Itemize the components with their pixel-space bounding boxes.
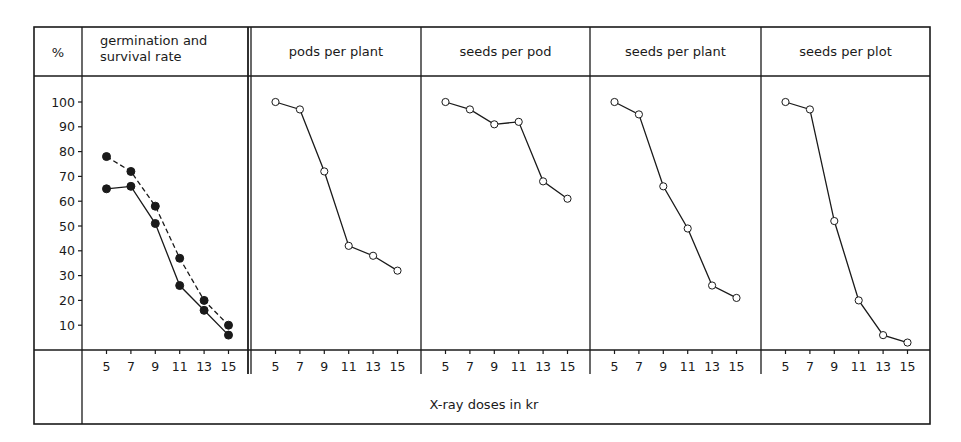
filled-circle-marker bbox=[127, 167, 135, 175]
panel-headers: germination andsurvival ratepods per pla… bbox=[100, 33, 892, 64]
y-tick-label: 80 bbox=[59, 144, 75, 159]
open-circle-marker bbox=[880, 332, 887, 339]
x-tick-label: 11 bbox=[172, 359, 188, 374]
x-tick-label: 15 bbox=[560, 359, 576, 374]
y-tick-label: 30 bbox=[59, 268, 75, 283]
open-circle-marker bbox=[515, 118, 522, 125]
x-tick-label: 5 bbox=[442, 359, 450, 374]
panel-title: seeds per plant bbox=[625, 44, 726, 59]
panel-title: pods per plant bbox=[289, 44, 383, 59]
x-tick-label: 9 bbox=[830, 359, 838, 374]
x-tick-label: 13 bbox=[196, 359, 212, 374]
x-tick-label: 7 bbox=[466, 359, 474, 374]
x-tick-label: 7 bbox=[127, 359, 135, 374]
series-germination-rate bbox=[103, 153, 233, 330]
filled-circle-marker bbox=[225, 321, 233, 329]
y-axis: 102030405060708090100 bbox=[51, 95, 82, 333]
y-tick-label: 40 bbox=[59, 243, 75, 258]
open-circle-marker bbox=[806, 106, 813, 113]
x-tick-label: 15 bbox=[900, 359, 916, 374]
solid-line bbox=[786, 102, 908, 343]
open-circle-marker bbox=[272, 98, 279, 105]
x-tick-label: 11 bbox=[341, 359, 357, 374]
x-axis-label: X-ray doses in kr bbox=[430, 397, 539, 412]
open-circle-marker bbox=[684, 225, 691, 232]
x-tick-label: 11 bbox=[851, 359, 867, 374]
open-circle-marker bbox=[782, 98, 789, 105]
filled-circle-marker bbox=[176, 282, 184, 290]
open-circle-marker bbox=[611, 98, 618, 105]
x-tick-label: 7 bbox=[296, 359, 304, 374]
dashed-line bbox=[107, 157, 229, 326]
open-circle-marker bbox=[345, 242, 352, 249]
open-circle-marker bbox=[635, 111, 642, 118]
outer-border bbox=[34, 27, 930, 424]
open-circle-marker bbox=[394, 267, 401, 274]
filled-circle-marker bbox=[200, 306, 208, 314]
open-circle-marker bbox=[442, 98, 449, 105]
open-circle-marker bbox=[855, 297, 862, 304]
open-circle-marker bbox=[564, 195, 571, 202]
open-circle-marker bbox=[540, 178, 547, 185]
y-tick-label: 90 bbox=[59, 119, 75, 134]
x-tick-label: 5 bbox=[272, 359, 280, 374]
x-tick-label: 15 bbox=[221, 359, 237, 374]
series-pods-per-plant bbox=[272, 98, 401, 274]
filled-circle-marker bbox=[151, 202, 159, 210]
x-tick-label: 11 bbox=[511, 359, 527, 374]
open-circle-marker bbox=[491, 121, 498, 128]
y-tick-label: 50 bbox=[59, 219, 75, 234]
panel-title-line: survival rate bbox=[100, 49, 181, 64]
solid-line bbox=[276, 102, 398, 271]
filled-circle-marker bbox=[127, 182, 135, 190]
series-survival-rate bbox=[103, 182, 233, 339]
data-series bbox=[103, 98, 912, 346]
open-circle-marker bbox=[370, 252, 377, 259]
filled-circle-marker bbox=[103, 153, 111, 161]
x-tick-label: 15 bbox=[390, 359, 406, 374]
solid-line bbox=[107, 186, 229, 335]
y-tick-label: 70 bbox=[59, 169, 75, 184]
solid-line bbox=[446, 102, 568, 199]
table-frame bbox=[34, 27, 930, 424]
x-tick-label: 13 bbox=[875, 359, 891, 374]
solid-line bbox=[615, 102, 737, 298]
x-tick-label: 9 bbox=[151, 359, 159, 374]
x-tick-label: 13 bbox=[535, 359, 551, 374]
filled-circle-marker bbox=[200, 296, 208, 304]
x-tick-label: 13 bbox=[704, 359, 720, 374]
x-tick-label: 7 bbox=[635, 359, 643, 374]
filled-circle-marker bbox=[103, 185, 111, 193]
x-tick-label: 5 bbox=[103, 359, 111, 374]
y-tick-label: 100 bbox=[51, 95, 75, 110]
x-tick-label: 7 bbox=[806, 359, 814, 374]
series-seeds-per-plot bbox=[782, 98, 911, 346]
open-circle-marker bbox=[709, 282, 716, 289]
y-tick-label: 20 bbox=[59, 293, 75, 308]
panel-title: seeds per plot bbox=[799, 44, 892, 59]
panel-title-line: germination and bbox=[100, 33, 207, 48]
open-circle-marker bbox=[466, 106, 473, 113]
open-circle-marker bbox=[321, 168, 328, 175]
x-tick-label: 15 bbox=[729, 359, 745, 374]
x-tick-label: 9 bbox=[490, 359, 498, 374]
series-seeds-per-pod bbox=[442, 98, 571, 202]
x-axes: 5791113155791113155791113155791113155791… bbox=[103, 350, 916, 374]
panel-title: seeds per pod bbox=[459, 44, 551, 59]
y-tick-label: 10 bbox=[59, 318, 75, 333]
filled-circle-marker bbox=[225, 331, 233, 339]
series-seeds-per-plant bbox=[611, 98, 740, 301]
open-circle-marker bbox=[831, 217, 838, 224]
open-circle-marker bbox=[733, 294, 740, 301]
x-ray-dose-chart: 102030405060708090100 germination andsur… bbox=[0, 0, 961, 442]
y-tick-label: 60 bbox=[59, 194, 75, 209]
open-circle-marker bbox=[296, 106, 303, 113]
x-tick-label: 5 bbox=[611, 359, 619, 374]
percent-unit-label: % bbox=[52, 45, 64, 60]
open-circle-marker bbox=[660, 183, 667, 190]
x-tick-label: 13 bbox=[365, 359, 381, 374]
open-circle-marker bbox=[904, 339, 911, 346]
filled-circle-marker bbox=[151, 220, 159, 228]
x-tick-label: 11 bbox=[680, 359, 696, 374]
x-tick-label: 9 bbox=[320, 359, 328, 374]
